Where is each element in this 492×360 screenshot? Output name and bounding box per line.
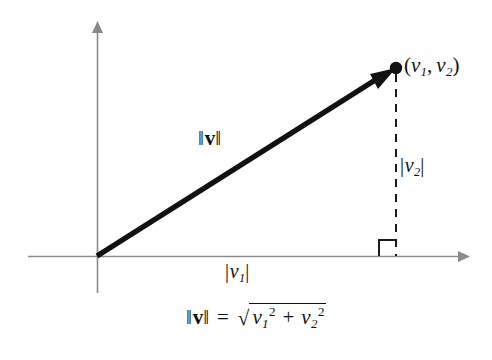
v2-magnitude-label: |v2| bbox=[400, 155, 425, 178]
v2-base: v bbox=[405, 154, 414, 176]
norm-bar-right: ‖ bbox=[215, 126, 222, 150]
norm-v-symbol: v bbox=[205, 126, 216, 150]
v1-magnitude-label: |v1| bbox=[225, 261, 250, 284]
radical-sign-icon: √ bbox=[238, 308, 250, 329]
point-open-paren: ( bbox=[404, 53, 411, 77]
formula-equals: = bbox=[210, 305, 238, 329]
formula-norm-v: v bbox=[193, 305, 204, 329]
point-close-paren: ) bbox=[452, 53, 459, 77]
term1-base: v bbox=[252, 305, 261, 329]
vector-magnitude-figure: (v1,v2) ‖v‖ |v2| |v1| ‖v‖=√v12+v22 bbox=[0, 0, 492, 360]
term2-base: v bbox=[301, 305, 310, 329]
vector-norm-label: ‖v‖ bbox=[198, 128, 222, 149]
v2-bar-right: | bbox=[420, 154, 425, 176]
term1-exponent: 2 bbox=[268, 304, 275, 319]
formula-norm-bar-left: ‖ bbox=[186, 305, 193, 329]
point-comma: , bbox=[427, 53, 436, 77]
y-axis-arrowhead-icon bbox=[92, 21, 103, 33]
point-coordinate-label: (v1,v2) bbox=[404, 55, 459, 78]
formula-plus: + bbox=[276, 305, 302, 329]
point-v2-base: v bbox=[436, 53, 445, 77]
term2-exponent: 2 bbox=[317, 304, 324, 319]
x-axis-arrowhead-icon bbox=[458, 251, 470, 262]
formula-radicand: v12+v22 bbox=[249, 305, 326, 330]
vector-arrow bbox=[97, 77, 380, 256]
point-v1-base: v bbox=[411, 53, 420, 77]
norm-bar-left: ‖ bbox=[198, 126, 205, 150]
v1-bar-right: | bbox=[245, 260, 250, 282]
endpoint-dot bbox=[390, 62, 402, 74]
right-angle-marker-icon bbox=[379, 240, 396, 256]
magnitude-formula: ‖v‖=√v12+v22 bbox=[186, 305, 326, 330]
v1-base: v bbox=[230, 260, 239, 282]
formula-norm-bar-right: ‖ bbox=[203, 305, 210, 329]
